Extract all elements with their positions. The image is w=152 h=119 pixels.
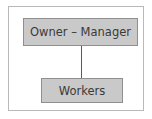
node-workers: Workers: [41, 78, 123, 103]
node-label: Workers: [59, 84, 106, 98]
node-owner-manager: Owner – Manager: [23, 18, 138, 46]
connector-line: [81, 46, 82, 78]
node-label: Owner – Manager: [30, 25, 131, 39]
